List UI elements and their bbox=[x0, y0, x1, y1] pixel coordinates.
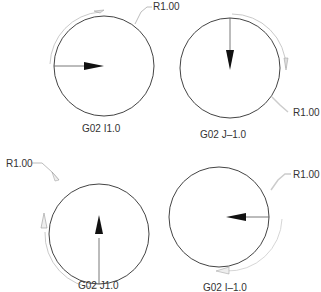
radius-leader bbox=[272, 97, 288, 112]
caption: G02 J1.0 bbox=[78, 280, 119, 291]
vector-arrow-icon bbox=[226, 213, 246, 221]
vector-arrow-icon bbox=[226, 50, 234, 70]
radius-label: R1.00 bbox=[6, 158, 33, 169]
radius-label: R1.00 bbox=[153, 1, 180, 12]
diagram-g02-j-minus1: R1.00 G02 J–1.0 bbox=[180, 14, 320, 140]
vector-arrow-icon bbox=[84, 62, 104, 70]
direction-arrowhead-icon bbox=[41, 213, 47, 228]
direction-arrowhead-icon bbox=[216, 267, 229, 274]
caption: G02 I–1.0 bbox=[203, 282, 247, 292]
radius-label: R1.00 bbox=[293, 107, 320, 118]
g02-arc-diagram: R1.00 G02 I1.0 R1.00 G02 J–1.0 R1.00 G02… bbox=[0, 0, 321, 292]
caption: G02 J–1.0 bbox=[200, 129, 247, 140]
direction-arc bbox=[50, 12, 100, 64]
radius-leader bbox=[271, 174, 291, 190]
direction-arc bbox=[226, 219, 282, 271]
caption: G02 I1.0 bbox=[82, 123, 121, 134]
radius-label: R1.00 bbox=[293, 169, 320, 180]
diagram-g02-j1: R1.00 G02 J1.0 bbox=[6, 158, 149, 291]
diagram-g02-i1: R1.00 G02 I1.0 bbox=[50, 1, 180, 134]
direction-arrowhead-icon bbox=[284, 58, 288, 70]
radius-leader bbox=[135, 7, 152, 24]
diagram-g02-i-minus1: R1.00 G02 I–1.0 bbox=[169, 167, 320, 292]
direction-arc bbox=[232, 14, 286, 68]
vector-arrow-icon bbox=[95, 215, 103, 234]
leader-arrowhead-icon bbox=[52, 172, 59, 181]
